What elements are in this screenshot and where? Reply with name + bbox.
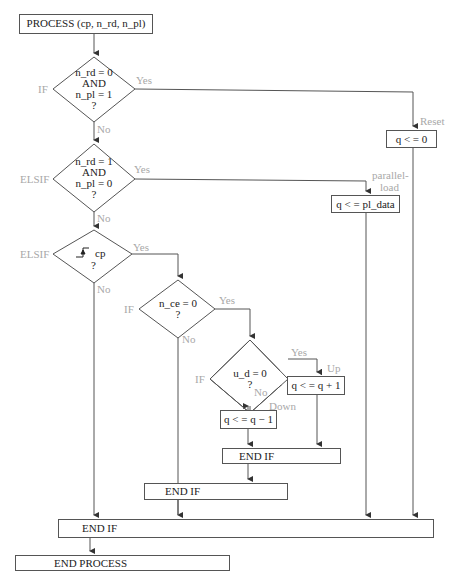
d1-yes-label: Yes — [136, 74, 152, 86]
d2-condition: n_rd = 1 AND n_pl = 0 ? — [75, 156, 112, 200]
load-action-box: q < = pl_data — [331, 195, 400, 213]
d5-keyword: IF — [195, 373, 205, 385]
d4-condition: n_ce = 0 ? — [159, 298, 197, 320]
end-if-outer-box: END IF — [58, 519, 434, 538]
d5-no-label: No — [254, 386, 267, 398]
end-process-box: END PROCESS — [15, 555, 230, 571]
process-start-label: PROCESS (cp, n_rd, n_pl) — [27, 17, 146, 29]
d3-no-label: No — [97, 283, 110, 295]
d4-keyword: IF — [124, 303, 134, 315]
d3-yes-label: Yes — [133, 241, 149, 253]
d1-no-label: No — [97, 123, 110, 135]
reset-annotation: Reset — [420, 115, 444, 127]
reset-action-box: q < = 0 — [386, 130, 437, 148]
end-if-mid-box: END IF — [144, 483, 288, 500]
load-annotation-line2: load — [380, 181, 399, 193]
d5-yes-label: Yes — [291, 346, 307, 358]
d4-no-label: No — [182, 333, 195, 345]
d3-question: ? — [91, 259, 96, 271]
d3-keyword: ELSIF — [20, 248, 49, 260]
up-action-box: q < = q + 1 — [287, 376, 345, 395]
d2-keyword: ELSIF — [20, 173, 49, 185]
d2-yes-label: Yes — [134, 163, 150, 175]
load-annotation-line1: parallel- — [372, 169, 409, 181]
down-action-box: q < = q − 1 — [220, 410, 277, 429]
end-if-inner-box: END IF — [222, 448, 341, 464]
up-annotation: Up — [327, 362, 340, 374]
d1-keyword: IF — [38, 83, 48, 95]
d1-condition: n_rd = 0 AND n_pl = 1 ? — [75, 67, 112, 111]
flowchart-canvas: PROCESS (cp, n_rd, n_pl) IF n_rd = 0 AND… — [0, 0, 456, 586]
d2-no-label: No — [97, 212, 110, 224]
process-start-box: PROCESS (cp, n_rd, n_pl) — [19, 14, 153, 34]
d4-yes-label: Yes — [219, 294, 235, 306]
d3-signal: cp — [95, 247, 105, 259]
